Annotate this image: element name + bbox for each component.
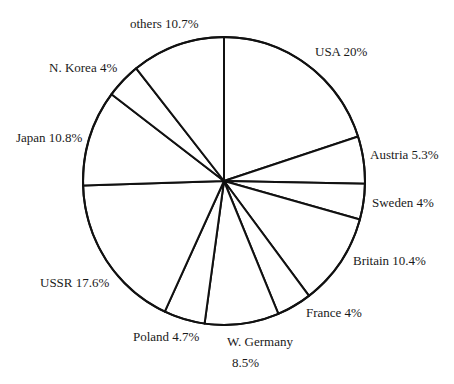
slice-label: Poland 4.7% bbox=[133, 330, 199, 344]
slice-label: Sweden 4% bbox=[372, 196, 434, 210]
slice-label: Britain 10.4% bbox=[353, 254, 426, 268]
slice-label: USA 20% bbox=[315, 45, 367, 59]
slice-label: USSR 17.6% bbox=[40, 276, 109, 290]
slice-label: France 4% bbox=[306, 306, 362, 320]
slice-label: W. Germany bbox=[227, 335, 293, 349]
pie-chart bbox=[0, 0, 454, 384]
slice-label: 8.5% bbox=[232, 356, 259, 370]
slice-label: N. Korea 4% bbox=[49, 61, 117, 75]
slice-label: others 10.7% bbox=[130, 17, 199, 31]
slice-label: Austria 5.3% bbox=[370, 148, 439, 162]
pie-slices bbox=[83, 37, 365, 325]
slice-label: Japan 10.8% bbox=[16, 131, 82, 145]
